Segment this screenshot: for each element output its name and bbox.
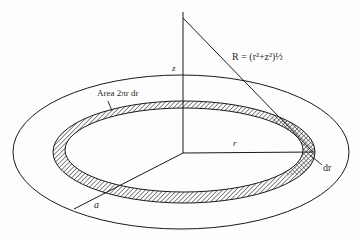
- label-ring-area: Area 2πr dr: [97, 89, 139, 98]
- label-r: r: [233, 139, 237, 148]
- label-a: a: [94, 200, 99, 210]
- label-z: z: [172, 64, 176, 73]
- diagram-graphic: [0, 0, 358, 240]
- label-R-formula: R = (r²+z²)½: [232, 52, 283, 62]
- label-dr: dr: [323, 163, 331, 173]
- disk-field-diagram: z R = (r²+z²)½ Area 2πr dr r dr a: [0, 0, 358, 240]
